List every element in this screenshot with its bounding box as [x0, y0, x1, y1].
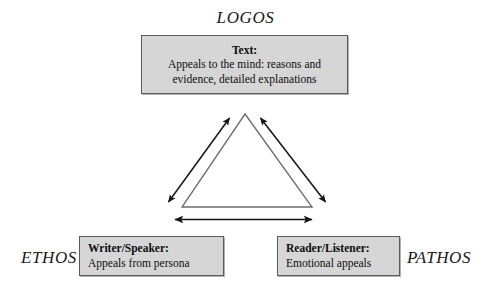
box-text: Text: Appeals to the mind: reasons and e… [141, 35, 348, 94]
box-reader-listener: Reader/Listener: Emotional appeals [277, 236, 400, 276]
box-reader-listener-line1: Emotional appeals [286, 256, 371, 271]
arrow-logos-pathos [261, 118, 326, 202]
box-reader-listener-title: Reader/Listener: [286, 241, 370, 255]
box-writer-speaker-line1: Appeals from persona [88, 256, 190, 271]
box-writer-speaker-title: Writer/Speaker: [88, 241, 169, 255]
box-text-line1: Appeals to the mind: reasons and [168, 57, 321, 72]
box-writer-speaker: Writer/Speaker: Appeals from persona [79, 236, 224, 276]
box-text-line2: evidence, detailed explanations [172, 72, 316, 87]
rhetorical-triangle-diagram: LOGOS ETHOS PATHOS Text: Appeals to the … [0, 0, 491, 290]
box-text-title: Text: [232, 43, 257, 57]
arrow-logos-ethos [169, 118, 230, 202]
